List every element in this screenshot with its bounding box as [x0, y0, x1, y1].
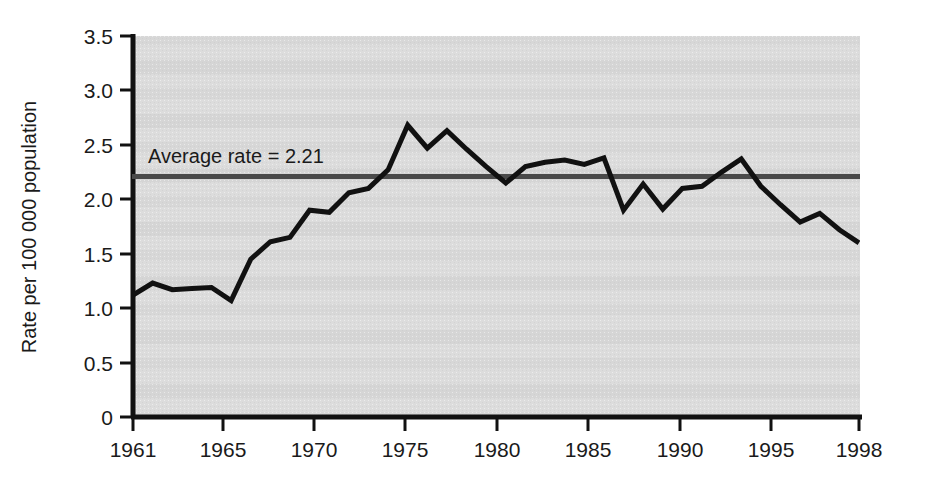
y-tick-label: 1.0: [84, 297, 113, 320]
x-tick-label: 1975: [382, 438, 429, 461]
x-tick-label: 1995: [748, 438, 795, 461]
y-tick-label: 0.5: [84, 352, 113, 375]
x-axis-tick-labels: 1961 1965 1970 1975 1980 1985 1990 1995 …: [110, 438, 883, 461]
y-axis-title: Rate per 100 000 population: [18, 101, 40, 353]
y-tick-label: 3.0: [84, 79, 113, 102]
chart-figure: 3.5 3.0 2.5 2.0 1.5 1.0 0.5 0 Rate per 1…: [0, 0, 930, 488]
plot-panel-background: [132, 36, 860, 417]
y-tick-label: 2.5: [84, 134, 113, 157]
line-chart: 3.5 3.0 2.5 2.0 1.5 1.0 0.5 0 Rate per 1…: [0, 0, 930, 488]
y-tick-label: 2.0: [84, 188, 113, 211]
x-tick-label: 1985: [565, 438, 612, 461]
x-axis: 1961 1965 1970 1975 1980 1985 1990 1995 …: [110, 417, 883, 461]
y-tick-label: 1.5: [84, 243, 113, 266]
x-tick-label: 1970: [291, 438, 338, 461]
average-rate-annotation-label: Average rate = 2.21: [148, 145, 324, 167]
y-axis-ticks: [120, 36, 132, 417]
y-tick-label: 3.5: [84, 25, 113, 48]
y-tick-label: 0: [101, 406, 113, 429]
x-tick-label: 1980: [474, 438, 521, 461]
x-tick-label: 1965: [200, 438, 247, 461]
x-tick-label: 1990: [657, 438, 704, 461]
x-tick-label: 1998: [836, 438, 883, 461]
y-axis-tick-labels: 3.5 3.0 2.5 2.0 1.5 1.0 0.5 0: [84, 25, 113, 429]
x-axis-ticks: [133, 418, 859, 431]
y-axis: 3.5 3.0 2.5 2.0 1.5 1.0 0.5 0 Rate per 1…: [18, 25, 133, 429]
x-tick-label: 1961: [110, 438, 157, 461]
